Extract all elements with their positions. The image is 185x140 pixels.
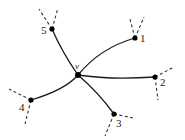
label-5: 5 (41, 24, 47, 36)
label-1: 1 (140, 32, 146, 44)
stub-4-a (9, 89, 31, 100)
label-2: 2 (160, 76, 166, 88)
edge-v-2 (78, 75, 155, 78)
node-v (75, 72, 81, 78)
stub-2-b (155, 77, 158, 100)
label-4: 4 (19, 101, 25, 113)
stub-4-b (25, 100, 31, 124)
stub-3-b (105, 114, 114, 136)
label-3: 3 (116, 117, 122, 129)
node-1 (132, 35, 137, 40)
stub-1-a (130, 19, 135, 38)
node-5 (49, 26, 54, 31)
node-2 (152, 74, 157, 79)
node-3 (111, 111, 116, 116)
stub-5-b (52, 8, 58, 29)
edge-v-3 (78, 75, 114, 114)
node-4 (28, 97, 33, 102)
edge-v-4 (31, 75, 78, 100)
label-v: v (75, 61, 79, 71)
graph-diagram: v 1 2 3 4 5 (0, 0, 185, 140)
edge-v-1 (78, 38, 135, 75)
